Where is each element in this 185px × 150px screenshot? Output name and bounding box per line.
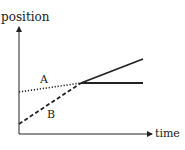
series-line-after-rising [81, 59, 143, 83]
annotation-a: A [39, 73, 49, 86]
annotation-b: B [47, 108, 55, 121]
series-line-a [19, 83, 81, 92]
y-axis-label: position [1, 10, 50, 24]
series-layer [19, 59, 143, 124]
position-time-chart: position time A B [0, 0, 185, 150]
x-axis-label: time [155, 127, 180, 140]
